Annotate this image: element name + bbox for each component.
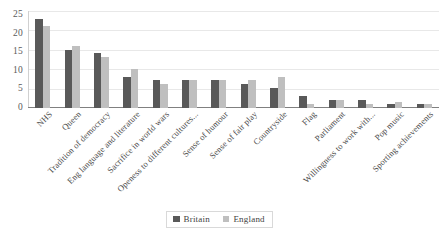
y-tick-label: 15 bbox=[13, 46, 23, 56]
bar-britain bbox=[182, 80, 190, 107]
bar-group bbox=[204, 11, 233, 108]
legend-item[interactable]: Britain bbox=[173, 214, 210, 224]
chart-legend: BritainEngland bbox=[166, 211, 273, 228]
bar-britain bbox=[270, 88, 278, 107]
bar-england bbox=[395, 102, 403, 108]
bar-group bbox=[28, 11, 57, 108]
y-tick-label: 25 bbox=[13, 9, 23, 19]
bar-group bbox=[263, 11, 292, 108]
bar-england bbox=[43, 26, 51, 107]
bar-britain bbox=[94, 53, 102, 107]
bar-britain bbox=[387, 104, 395, 108]
bar-britain bbox=[329, 100, 337, 108]
x-axis-label: Queen bbox=[60, 109, 83, 132]
bar-england bbox=[219, 80, 227, 107]
bar-group bbox=[145, 11, 174, 108]
bar-britain bbox=[65, 50, 73, 108]
y-tick-label: 0 bbox=[18, 102, 23, 112]
bar-britain bbox=[35, 19, 43, 108]
y-tick-label: 10 bbox=[13, 65, 23, 75]
bar-britain bbox=[123, 77, 131, 108]
bar-england bbox=[424, 104, 432, 108]
bar-england bbox=[336, 100, 344, 108]
legend-label: England bbox=[233, 214, 264, 224]
bar-england bbox=[248, 80, 256, 107]
bar-group bbox=[175, 11, 204, 108]
legend-label: Britain bbox=[184, 214, 210, 224]
bar-england bbox=[189, 80, 197, 107]
bar-england bbox=[307, 104, 315, 108]
y-tick-label: 20 bbox=[13, 28, 23, 38]
bar-britain bbox=[241, 84, 249, 107]
bar-britain bbox=[211, 80, 219, 107]
bar-england bbox=[366, 104, 374, 108]
bar-series-container bbox=[28, 11, 439, 108]
bar-group bbox=[116, 11, 145, 108]
legend-item[interactable]: England bbox=[223, 214, 265, 224]
legend-swatch-icon bbox=[173, 216, 180, 223]
bar-britain bbox=[358, 100, 366, 108]
bar-group bbox=[87, 11, 116, 108]
legend-swatch-icon bbox=[223, 216, 230, 223]
x-axis-label: Flag bbox=[300, 109, 318, 127]
bar-group bbox=[380, 11, 409, 108]
bar-chart: 25 20 15 10 5 0 NHSQueenTradition of dem… bbox=[0, 0, 447, 245]
bar-britain bbox=[417, 104, 425, 108]
bar-group bbox=[351, 11, 380, 108]
bar-group bbox=[410, 11, 439, 108]
bar-britain bbox=[153, 80, 161, 107]
bar-england bbox=[101, 57, 109, 107]
y-axis-ticks: 25 20 15 10 5 0 bbox=[0, 0, 23, 108]
bar-england bbox=[131, 69, 139, 108]
bar-group bbox=[292, 11, 321, 108]
y-tick-label: 5 bbox=[18, 83, 23, 93]
bar-england bbox=[72, 46, 80, 108]
bar-group bbox=[234, 11, 263, 108]
bar-britain bbox=[299, 96, 307, 108]
bar-group bbox=[322, 11, 351, 108]
bar-england bbox=[160, 84, 168, 107]
x-axis-label: NHS bbox=[34, 109, 54, 129]
bar-england bbox=[278, 77, 286, 108]
bar-group bbox=[57, 11, 86, 108]
